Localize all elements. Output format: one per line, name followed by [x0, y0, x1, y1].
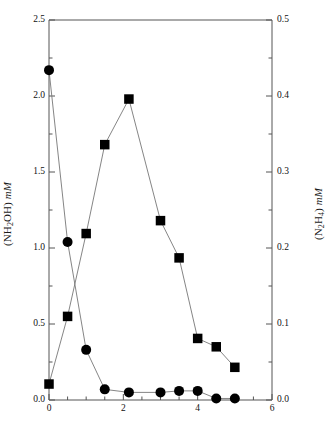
y-axis-left-tick-label: 0.5 — [19, 318, 45, 328]
data-point-circle — [124, 387, 134, 397]
y-left-mid: OH) — [1, 199, 13, 222]
data-point-circle — [100, 384, 110, 394]
y-left-prefix: (NH — [1, 226, 13, 246]
data-point-square — [212, 342, 222, 352]
data-point-square — [81, 229, 91, 239]
chart-figure: (NH2OH) mM (N2H4) mM 02460.00.51.01.52.0… — [0, 0, 327, 428]
data-point-circle — [63, 237, 73, 247]
data-point-square — [174, 253, 184, 263]
data-point-square — [63, 312, 73, 322]
y-right-s1: 2 — [317, 224, 326, 228]
y-right-p3: ) — [312, 205, 324, 212]
y-right-unit: mM — [312, 188, 324, 205]
data-point-square — [193, 334, 203, 344]
x-tick-label: 0 — [39, 403, 59, 413]
data-point-square — [156, 216, 166, 226]
y-axis-right-tick-label: 0.1 — [277, 318, 303, 328]
x-tick-label: 6 — [262, 403, 282, 413]
y-axis-left-title: (NH2OH) mM — [0, 0, 16, 428]
data-point-square — [44, 379, 54, 389]
series-line-2 — [49, 99, 235, 384]
series-group — [44, 65, 240, 403]
y-axis-right-tick-label: 0.2 — [277, 242, 303, 252]
data-point-circle — [81, 345, 91, 355]
y-axis-right-title-text: (N2H4) mM — [312, 188, 326, 240]
y-axis-left-tick-label: 1.5 — [19, 166, 45, 176]
y-left-unit: mM — [1, 182, 13, 199]
y-left-subscript: 2 — [6, 222, 15, 226]
y-axis-left-tick-label: 1.0 — [19, 242, 45, 252]
y-right-s2: 4 — [317, 212, 326, 216]
data-point-circle — [44, 65, 54, 75]
x-tick-label: 4 — [188, 403, 208, 413]
y-right-p2: H — [312, 216, 324, 224]
data-point-square — [100, 140, 110, 150]
y-axis-left-tick-label: 2.0 — [19, 90, 45, 100]
series-line-1 — [49, 70, 235, 398]
axes-group — [49, 20, 272, 400]
data-point-square — [230, 363, 240, 373]
x-tick-label: 2 — [113, 403, 133, 413]
y-axis-left-tick-label: 0.0 — [19, 394, 45, 404]
y-axis-right-tick-label: 0.5 — [277, 14, 303, 24]
y-axis-right-title: (N2H4) mM — [311, 0, 327, 428]
y-axis-left-tick-label: 2.5 — [19, 14, 45, 24]
data-point-circle — [193, 386, 203, 396]
data-point-circle — [174, 386, 184, 396]
y-axis-right-tick-label: 0.4 — [277, 90, 303, 100]
y-axis-left-title-text: (NH2OH) mM — [1, 182, 15, 246]
y-axis-right-tick-label: 0.3 — [277, 166, 303, 176]
data-point-circle — [230, 393, 240, 403]
data-point-square — [124, 94, 134, 104]
y-right-p1: (N — [312, 228, 324, 240]
data-point-circle — [211, 393, 221, 403]
plot-canvas — [0, 0, 327, 428]
data-point-circle — [156, 387, 166, 397]
y-axis-right-tick-label: 0.0 — [277, 394, 303, 404]
